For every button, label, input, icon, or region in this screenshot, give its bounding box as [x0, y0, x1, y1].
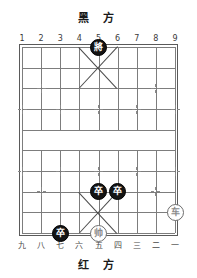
- red-side-label: 红 方: [0, 256, 197, 272]
- black-general[interactable]: 將: [90, 39, 107, 56]
- grid-file-line: [60, 47, 61, 130]
- position-marker: [132, 167, 141, 176]
- file-label: 五: [92, 240, 106, 252]
- file-label: 二: [149, 240, 163, 252]
- black-side-label: 黑 方: [0, 9, 197, 25]
- position-marker: [94, 105, 103, 114]
- file-label: 一: [168, 240, 182, 252]
- bottom-file-numbers: 九八七六五四三二一: [0, 240, 197, 252]
- black-pawn-3[interactable]: 卒: [52, 225, 69, 242]
- file-label: 八: [34, 240, 48, 252]
- file-label: 四: [111, 240, 125, 252]
- piece-glyph: 卒: [56, 229, 65, 238]
- piece-glyph: 帅: [94, 229, 103, 238]
- position-marker: [37, 187, 46, 196]
- xiangqi-board: 黑 方 123456789 將卒卒卒帅车 九八七六五四三二一 红 方: [0, 0, 197, 278]
- position-marker: [56, 105, 65, 114]
- file-label: 三: [130, 240, 144, 252]
- grid-file-line: [22, 47, 23, 233]
- file-label: 七: [53, 240, 67, 252]
- position-marker: [18, 105, 27, 114]
- piece-glyph: 卒: [113, 187, 122, 196]
- red-chariot[interactable]: 车: [167, 204, 184, 221]
- position-marker: [151, 84, 160, 93]
- grid-file-line: [118, 47, 119, 130]
- position-marker: [56, 167, 65, 176]
- position-marker: [37, 84, 46, 93]
- grid-file-line: [137, 150, 138, 233]
- position-marker: [171, 167, 180, 176]
- grid-file-line: [137, 47, 138, 130]
- grid-file-line: [99, 47, 100, 130]
- grid-rank-line: [22, 130, 175, 131]
- board-grid: 將卒卒卒帅车: [22, 47, 175, 233]
- grid-file-line: [60, 150, 61, 233]
- position-marker: [94, 167, 103, 176]
- file-label: 六: [72, 240, 86, 252]
- piece-glyph: 车: [171, 208, 180, 217]
- piece-glyph: 將: [94, 43, 103, 52]
- position-marker: [132, 105, 141, 114]
- piece-glyph: 卒: [94, 187, 103, 196]
- position-marker: [171, 105, 180, 114]
- position-marker: [151, 187, 160, 196]
- position-marker: [18, 167, 27, 176]
- file-label: 九: [15, 240, 29, 252]
- red-marshal[interactable]: 帅: [90, 225, 107, 242]
